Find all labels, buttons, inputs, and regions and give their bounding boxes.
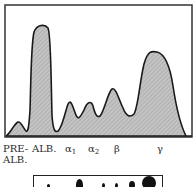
densitometry-trace xyxy=(0,0,195,140)
band-gamma xyxy=(142,176,156,187)
band-alpha2 xyxy=(115,183,118,187)
band-beta xyxy=(129,181,135,187)
label-prealbumin-line2: ALB. xyxy=(3,154,28,165)
label-alpha2: α2 xyxy=(88,143,99,158)
band-alpha1 xyxy=(102,183,105,187)
label-gamma: γ xyxy=(157,143,163,154)
label-beta: β xyxy=(114,143,120,154)
label-alpha1-base: α xyxy=(65,143,72,154)
gel-strip xyxy=(33,175,163,187)
label-alpha1-sub: 1 xyxy=(72,148,76,156)
band-prealbumin xyxy=(47,184,50,187)
label-alpha2-base: α xyxy=(88,143,95,154)
label-alpha1: α1 xyxy=(65,143,76,158)
label-prealbumin: PRE- ALB. xyxy=(3,143,28,165)
label-prealbumin-line1: PRE- xyxy=(3,143,28,154)
band-albumin xyxy=(76,179,83,187)
label-albumin: ALB. xyxy=(32,143,56,154)
label-alpha2-sub: 2 xyxy=(95,148,99,156)
